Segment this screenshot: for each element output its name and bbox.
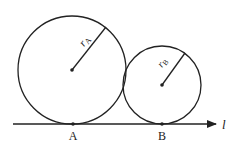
radius-b-line [162, 53, 185, 85]
point-a-dot [71, 122, 75, 126]
point-b-dot [160, 122, 164, 126]
tangent-circles-diagram: rA rB l A B [0, 0, 238, 149]
radius-a-line [72, 27, 106, 70]
center-b-dot [160, 83, 164, 87]
radius-b-label: rB [155, 55, 171, 70]
center-a-dot [70, 68, 74, 72]
point-a-label: A [69, 129, 78, 143]
line-l-label: l [222, 117, 226, 132]
point-b-label: B [158, 129, 166, 143]
